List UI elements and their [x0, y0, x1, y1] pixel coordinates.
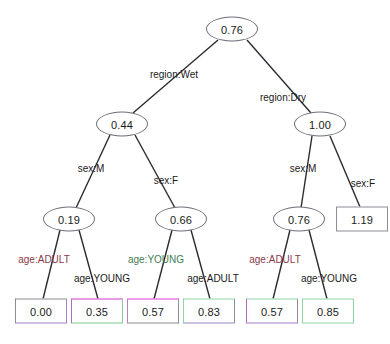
- tree-edge: [273, 230, 290, 299]
- tree-leaf-node: 1.19: [336, 207, 388, 232]
- tree-edge-label: sex:M: [78, 163, 105, 174]
- tree-edge: [191, 230, 210, 299]
- tree-leaf-node: 0.57: [246, 299, 298, 324]
- tree-leaf-node: 0.85: [302, 299, 354, 324]
- tree-leaf-node: 0.57: [127, 299, 179, 324]
- tree-leaf-node: 0.00: [15, 299, 67, 324]
- tree-edge: [79, 230, 98, 299]
- tree-edge-label: sex:F: [154, 175, 178, 186]
- decision-tree-diagram: 0.760.441.000.190.660.761.190.000.350.57…: [0, 0, 390, 344]
- tree-edge-label: sex:F: [351, 178, 375, 189]
- tree-edge-label: age:ADULT: [187, 273, 239, 284]
- tree-edge-label: region:Wet: [150, 69, 198, 80]
- tree-internal-node: 0.44: [96, 112, 148, 137]
- tree-edge-label: region:Dry: [260, 92, 306, 103]
- tree-edge-label: age:ADULT: [249, 254, 301, 265]
- tree-edge-label: sex:M: [290, 163, 317, 174]
- tree-edge-label: age:YOUNG: [128, 254, 184, 265]
- tree-leaf-node: 0.83: [183, 299, 235, 324]
- tree-internal-node: 0.76: [206, 17, 258, 42]
- tree-edge-label: age:YOUNG: [74, 273, 130, 284]
- tree-edge: [135, 135, 175, 208]
- tree-internal-node: 0.19: [43, 207, 95, 232]
- tree-internal-node: 1.00: [294, 112, 346, 137]
- tree-leaf-node: 0.35: [71, 299, 123, 324]
- tree-edge-label: age:ADULT: [18, 254, 70, 265]
- tree-internal-node: 0.76: [273, 207, 325, 232]
- tree-edge: [330, 136, 360, 207]
- tree-edge: [43, 230, 60, 299]
- tree-edge: [154, 230, 172, 299]
- tree-edges-layer: [0, 0, 390, 344]
- tree-edge-label: age:YOUNG: [301, 273, 357, 284]
- tree-internal-node: 0.66: [155, 207, 207, 232]
- tree-edge: [309, 230, 327, 299]
